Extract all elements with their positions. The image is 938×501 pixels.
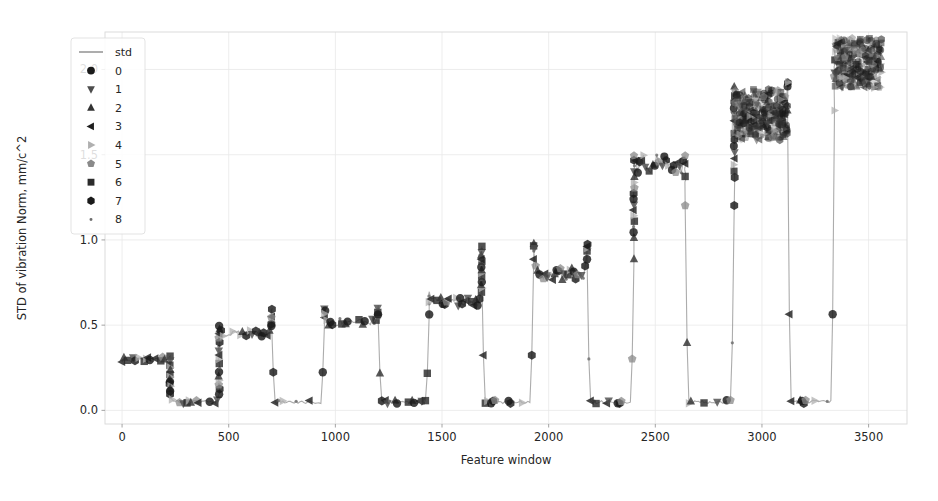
data-point-marker <box>866 35 873 42</box>
data-point-marker <box>828 310 836 318</box>
y-tick-label: 0.0 <box>80 403 98 417</box>
legend-label: std <box>115 46 132 59</box>
data-point-marker <box>629 228 637 236</box>
data-point-marker <box>410 399 418 407</box>
data-point-marker <box>478 243 485 250</box>
data-point-marker <box>861 63 866 68</box>
data-point-marker <box>124 357 131 364</box>
data-point-marker <box>847 83 855 91</box>
legend-marker-swatch <box>88 179 95 186</box>
data-point-marker <box>774 103 779 108</box>
data-point-marker <box>852 53 857 58</box>
legend-label: 7 <box>115 195 122 208</box>
data-point-marker <box>785 78 788 81</box>
data-point-marker <box>750 86 757 93</box>
x-tick-label: 1500 <box>427 430 456 444</box>
data-point-marker <box>592 400 599 407</box>
x-tick-label: 0 <box>118 430 125 444</box>
data-point-marker <box>857 36 864 43</box>
x-tick-label: 1000 <box>321 430 350 444</box>
legend-label: 8 <box>115 213 122 226</box>
data-point-marker <box>360 317 368 325</box>
data-point-marker <box>731 341 734 344</box>
y-tick-label: 1.0 <box>80 233 98 247</box>
data-point-marker <box>583 255 591 263</box>
chart-legend: std012345678 <box>71 38 145 234</box>
data-point-marker <box>734 115 739 120</box>
data-point-marker <box>700 399 707 406</box>
data-point-marker <box>826 400 829 403</box>
data-point-marker <box>295 400 298 403</box>
legend-label: 0 <box>115 65 122 78</box>
x-tick-label: 500 <box>218 430 240 444</box>
legend-label: 2 <box>115 102 122 115</box>
data-point-marker <box>146 356 154 364</box>
x-tick-label: 2000 <box>534 430 563 444</box>
data-point-marker <box>205 397 213 405</box>
legend-label: 5 <box>115 158 122 171</box>
legend-label: 4 <box>115 139 122 152</box>
data-point-marker <box>422 397 429 404</box>
legend-marker-swatch <box>87 67 95 75</box>
data-point-marker <box>582 277 585 280</box>
data-point-marker <box>857 68 865 76</box>
data-point-marker <box>760 134 765 139</box>
legend-marker-swatch <box>90 218 93 221</box>
data-point-marker <box>547 272 550 275</box>
data-point-marker <box>338 317 341 320</box>
data-point-marker <box>425 310 433 318</box>
x-axis-label: Feature window <box>461 453 552 467</box>
data-point-marker <box>756 123 763 130</box>
legend-label: 6 <box>115 176 122 189</box>
data-point-marker <box>424 370 431 377</box>
data-point-marker <box>633 164 636 167</box>
data-point-marker <box>731 168 738 175</box>
legend-label: 1 <box>115 83 122 96</box>
chart-figure: 0500100015002000250030003500 0.00.51.01.… <box>0 0 938 501</box>
data-point-marker <box>319 368 327 376</box>
data-point-marker <box>768 99 773 104</box>
data-point-marker <box>634 168 642 176</box>
data-point-marker <box>655 153 658 156</box>
data-point-marker <box>374 310 382 318</box>
x-tick-label: 3500 <box>854 430 883 444</box>
data-point-marker <box>878 40 885 47</box>
data-point-marker <box>681 173 688 180</box>
y-axis-label: STD of vibration Norm, mm/c^2 <box>15 136 29 321</box>
data-point-marker <box>865 58 872 65</box>
data-point-marker <box>734 95 741 102</box>
data-point-marker <box>632 225 635 228</box>
data-point-marker <box>840 65 847 72</box>
legend-label: 3 <box>115 120 122 133</box>
data-point-marker <box>388 399 391 402</box>
data-point-marker <box>532 249 535 252</box>
data-point-marker <box>646 168 653 175</box>
data-point-marker <box>393 399 401 407</box>
x-tick-label: 2500 <box>641 430 670 444</box>
data-point-marker <box>776 121 783 128</box>
legend-box <box>71 38 145 234</box>
chart-canvas: 0500100015002000250030003500 0.00.51.01.… <box>0 0 938 501</box>
data-point-marker <box>587 357 590 360</box>
y-tick-label: 0.5 <box>80 318 98 332</box>
x-tick-label: 3000 <box>747 430 776 444</box>
data-point-marker <box>343 317 351 325</box>
